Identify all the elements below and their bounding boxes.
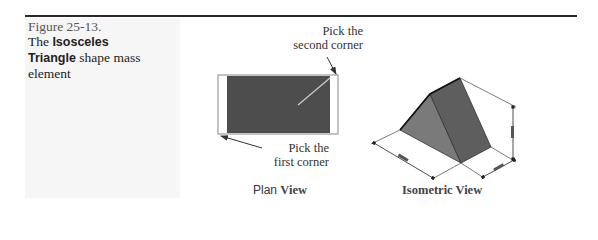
callout-first-line1: Pick the [250, 141, 329, 155]
width-dimension [374, 143, 433, 178]
callout-second-corner: Pick the second corner [270, 24, 363, 52]
arrow-second-corner [327, 57, 336, 74]
plan-view-label: Plan View [253, 183, 307, 198]
plan-view-label-plan: Plan [253, 183, 280, 197]
callout-second-line2: second corner [270, 38, 363, 52]
callout-first-corner: Pick the first corner [250, 141, 329, 169]
isometric-view-label: Isometric View [402, 183, 482, 198]
plan-view-drawing [218, 57, 338, 148]
plan-view-label-view: View [280, 183, 307, 197]
isometric-view-drawing [371, 78, 516, 179]
callout-second-line1: Pick the [270, 24, 363, 38]
callout-first-line2: first corner [250, 155, 329, 169]
isometric-view-label-text: Isometric View [402, 183, 482, 197]
